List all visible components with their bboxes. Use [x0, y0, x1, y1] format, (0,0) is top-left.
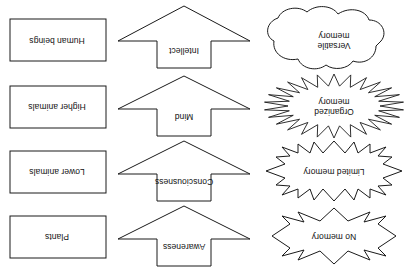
down-arrow-icon [110, 72, 258, 140]
down-arrow-icon [110, 202, 258, 270]
organism-box-plants[interactable]: Plants [4, 202, 110, 270]
rectangle-icon [4, 202, 110, 270]
memory-shape-no-memory[interactable]: No memory [258, 202, 410, 270]
diagram-row: Organized memory Mind Higher animals [0, 72, 414, 140]
down-arrow-icon [110, 2, 258, 74]
memory-shape-organized-memory[interactable]: Organized memory [258, 72, 410, 140]
memory-shape-versatile-memory[interactable]: Versatile memory [258, 6, 410, 74]
organism-box-lower-animals[interactable]: Lower animals [4, 137, 110, 205]
organism-box-higher-animals[interactable]: Higher animals [4, 72, 110, 140]
diagram-row: No memory Awareness Plants [0, 202, 414, 270]
sunburst-icon [258, 72, 410, 140]
organism-box-human-beings[interactable]: Human beings [4, 6, 110, 74]
diagram-rotated-group: No memory Awareness Plants [0, 0, 414, 274]
faculty-arrow-intellect[interactable]: Intellect [110, 6, 258, 74]
faculty-arrow-mind[interactable]: Mind [110, 72, 258, 140]
rectangle-icon [4, 72, 110, 140]
rectangle-icon [4, 2, 110, 74]
faculty-arrow-awareness[interactable]: Awareness [110, 202, 258, 270]
cloud-icon [258, 2, 410, 74]
explosion-4-point-icon [258, 202, 410, 270]
down-arrow-icon [110, 137, 258, 205]
memory-shape-limited-memory[interactable]: Limited memory [258, 137, 410, 205]
diagram-row: Limited memory Consciousness Lower anima… [0, 137, 414, 205]
diagram-row: Versatile memory Intellect Human beings [0, 6, 414, 74]
rectangle-icon [4, 137, 110, 205]
faculty-arrow-consciousness[interactable]: Consciousness [110, 137, 258, 205]
diagram-canvas: No memory Awareness Plants [0, 0, 414, 274]
explosion-8-point-icon [258, 137, 410, 205]
